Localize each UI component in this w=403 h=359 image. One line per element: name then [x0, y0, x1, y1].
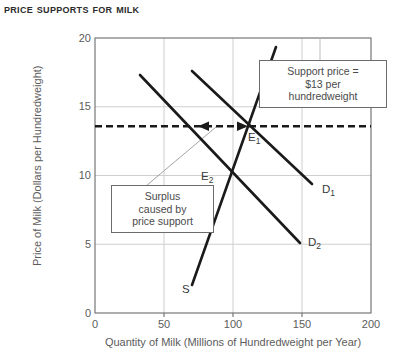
curve-label-d1: D1	[322, 183, 335, 198]
equilibrium-label-e1-subscript: 1	[256, 136, 261, 146]
y-tick-5: 5	[61, 238, 91, 250]
y-tick-20: 20	[61, 32, 91, 44]
x-tick-100: 100	[213, 318, 253, 330]
equilibrium-label-e2-text: E	[201, 170, 209, 182]
y-tick-15: 15	[61, 100, 91, 112]
equilibrium-label-e2-subscript: 2	[209, 175, 214, 185]
equilibrium-label-e1: E1	[248, 131, 260, 146]
equilibrium-label-e1-text: E	[248, 131, 256, 143]
x-axis-label: Quantity of Milk (Millions of Hundredwei…	[95, 336, 371, 348]
curve-label-supply-text: S	[182, 283, 190, 295]
x-tick-0: 0	[75, 318, 115, 330]
support-callout-line1: Support price =	[265, 65, 381, 78]
y-axis-label: Price of Milk (Dollars per Hundredweight…	[31, 66, 43, 266]
support-price-callout: Support price = $13 per hundredweight	[259, 60, 387, 108]
curve-label-d2-subscript: 2	[316, 241, 321, 251]
equilibrium-label-e2: E2	[201, 170, 213, 185]
surplus-callout: Surplus caused by price support	[111, 185, 214, 233]
x-axis-ticks	[164, 313, 302, 317]
surplus-callout-line3: price support	[117, 215, 208, 228]
x-tick-150: 150	[282, 318, 322, 330]
surplus-callout-line1: Surplus	[117, 190, 208, 203]
y-tick-10: 10	[61, 169, 91, 181]
support-callout-line2: $13 per	[265, 78, 381, 91]
x-tick-50: 50	[144, 318, 184, 330]
x-tick-200: 200	[351, 318, 391, 330]
curve-label-supply: S	[182, 283, 190, 295]
surplus-callout-line2: caused by	[117, 203, 208, 216]
curve-label-d1-subscript: 1	[330, 188, 335, 198]
support-callout-line3: hundredweight	[265, 90, 381, 103]
curve-label-d2: D2	[308, 236, 321, 251]
